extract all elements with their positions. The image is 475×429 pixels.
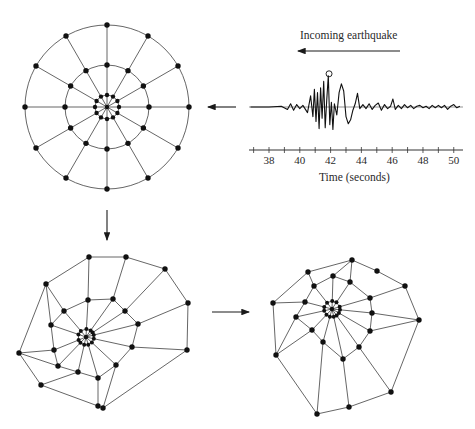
- web-node: [293, 314, 298, 319]
- web-node: [33, 63, 38, 68]
- web-thread: [405, 286, 419, 320]
- web-node: [99, 94, 103, 98]
- web-node: [146, 104, 151, 109]
- web-thread: [343, 359, 349, 407]
- web-node: [346, 404, 351, 409]
- web-thread: [19, 353, 58, 366]
- web-thread: [317, 342, 323, 414]
- web-thread: [276, 330, 312, 355]
- web-thread: [305, 286, 314, 302]
- web-thread: [350, 282, 370, 298]
- web-node: [125, 141, 130, 146]
- web-node: [332, 315, 336, 319]
- seismogram-trace: [251, 76, 460, 130]
- web-thread: [51, 311, 64, 325]
- web-thread: [46, 257, 89, 284]
- web-thread: [391, 320, 419, 392]
- web-node: [340, 356, 345, 361]
- web-node: [55, 363, 60, 368]
- web-thread: [370, 313, 372, 331]
- x-tick-label: 48: [417, 154, 428, 166]
- web-node: [63, 33, 68, 38]
- web-thread: [132, 347, 187, 350]
- web-node: [113, 362, 118, 367]
- web-thread: [273, 303, 276, 355]
- web-node: [302, 299, 307, 304]
- peak-marker-icon: [326, 71, 332, 77]
- web-thread: [370, 286, 405, 298]
- web-node: [90, 340, 94, 344]
- web-node: [75, 369, 80, 374]
- web-node: [22, 104, 27, 109]
- web-node: [105, 117, 109, 121]
- web-node: [48, 322, 53, 327]
- web-thread: [88, 299, 113, 300]
- seismogram-chart: [249, 71, 463, 153]
- web-node: [186, 104, 191, 109]
- x-tick-label: 46: [387, 154, 398, 166]
- web-node: [325, 301, 329, 305]
- web-node: [62, 104, 67, 109]
- web-thread: [314, 276, 333, 286]
- web-node: [104, 146, 109, 151]
- web-thread: [98, 365, 116, 378]
- web-thread: [273, 302, 305, 303]
- web-node: [84, 335, 88, 339]
- web-node: [367, 295, 372, 300]
- figure-canvas: [0, 0, 475, 429]
- x-tick-label: 50: [448, 154, 459, 166]
- web-node: [334, 300, 338, 304]
- web-node: [105, 93, 109, 97]
- web-thread: [116, 347, 132, 365]
- web-node: [175, 145, 180, 150]
- x-tick-label: 40: [294, 154, 305, 166]
- web-node: [92, 337, 96, 341]
- web-thread: [276, 317, 296, 355]
- web-node: [270, 300, 275, 305]
- web-node: [115, 99, 119, 103]
- chart-title: Incoming earthquake: [300, 29, 397, 41]
- web-node: [374, 268, 379, 273]
- web-thread: [58, 366, 78, 372]
- web-node: [83, 141, 88, 146]
- web-node: [79, 329, 83, 333]
- web-node: [115, 111, 119, 115]
- web-node: [104, 22, 109, 27]
- web-thread: [113, 257, 126, 299]
- web-thread: [352, 260, 377, 271]
- web-thread: [296, 317, 312, 330]
- deformed-web-1: [16, 254, 190, 410]
- web-thread: [372, 313, 419, 320]
- web-node: [77, 338, 81, 342]
- x-tick-label: 38: [264, 154, 275, 166]
- web-node: [110, 296, 115, 301]
- web-thread: [333, 276, 350, 282]
- web-thread: [19, 284, 46, 353]
- web-node: [324, 313, 328, 317]
- web-node: [85, 297, 90, 302]
- web-thread: [349, 392, 391, 407]
- web-node: [63, 175, 68, 180]
- web-node: [273, 352, 278, 357]
- x-tick-label: 44: [356, 154, 367, 166]
- web-thread: [126, 257, 165, 269]
- web-node: [162, 266, 167, 271]
- deformed-web-2: [270, 257, 421, 416]
- web-node: [92, 333, 96, 337]
- web-thread: [88, 257, 89, 300]
- x-tick-label: 42: [325, 154, 336, 166]
- web-thread: [19, 350, 54, 353]
- web-thread: [103, 350, 187, 408]
- web-node: [83, 68, 88, 73]
- web-node: [61, 308, 66, 313]
- web-node: [33, 145, 38, 150]
- web-node: [185, 300, 190, 305]
- web-node: [43, 281, 48, 286]
- web-node: [16, 350, 21, 355]
- web-node: [145, 175, 150, 180]
- web-node: [311, 283, 316, 288]
- web-node: [328, 315, 332, 319]
- web-thread: [350, 260, 352, 282]
- web-node: [93, 105, 97, 109]
- web-node: [309, 327, 314, 332]
